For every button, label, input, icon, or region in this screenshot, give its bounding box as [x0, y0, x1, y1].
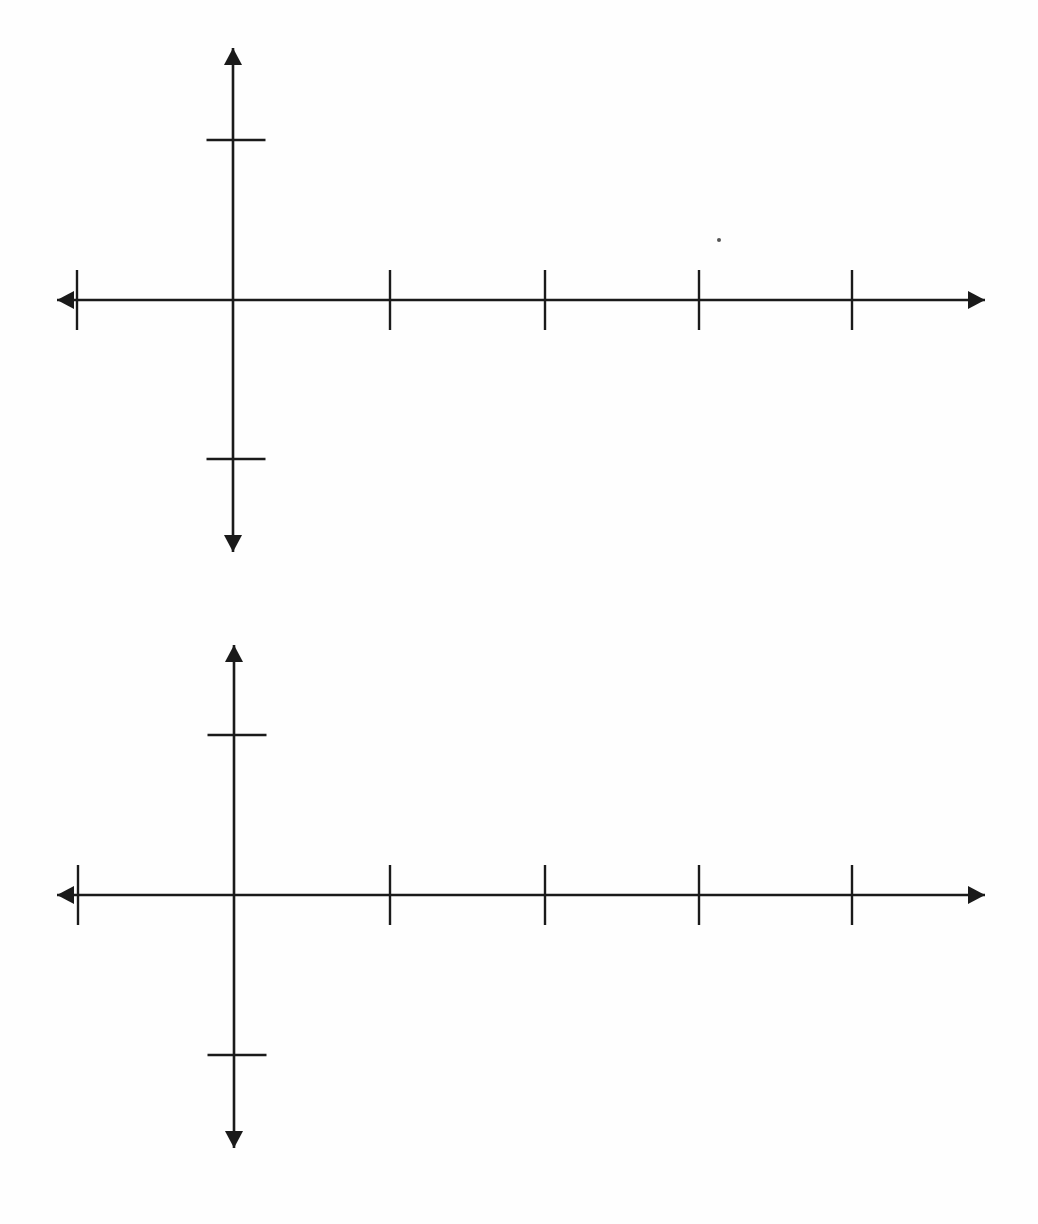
- x-axis-left-arrowhead: [57, 886, 74, 904]
- y-axis-up-arrowhead: [224, 48, 242, 65]
- y-axis-down-arrowhead: [225, 1131, 243, 1148]
- graph-2-blank-axes: [0, 612, 1038, 1224]
- x-axis-right-arrowhead: [968, 886, 985, 904]
- y-axis-up-arrowhead: [225, 645, 243, 662]
- x-axis-left-arrowhead: [57, 291, 74, 309]
- worksheet-page: Blank Coordinate Axes Worksheet: [0, 0, 1038, 1224]
- y-axis-down-arrowhead: [224, 535, 242, 552]
- scan-speck-icon: [717, 238, 721, 242]
- x-axis-right-arrowhead: [968, 291, 985, 309]
- graph-1-blank-axes: [0, 0, 1038, 612]
